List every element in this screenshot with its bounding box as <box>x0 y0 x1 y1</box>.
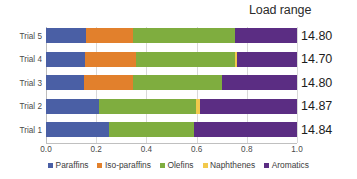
x-tick-label: 0.4 <box>141 145 152 154</box>
category-label: Trial 4 <box>0 55 42 64</box>
x-tick-label: 1.0 <box>291 145 302 154</box>
stacked-bar[interactable] <box>46 99 297 114</box>
load-range-value: 14.70 <box>301 52 355 66</box>
legend-label: Aromatics <box>272 160 309 170</box>
legend-swatch-icon <box>203 163 208 168</box>
legend-swatch-icon <box>160 163 165 168</box>
stacked-bar-chart: Load range 0.00.20.40.60.81.0 Trial 5Tri… <box>0 0 357 179</box>
stacked-bar[interactable] <box>46 52 297 67</box>
bar-row[interactable] <box>46 75 297 90</box>
bar-row[interactable] <box>46 122 297 137</box>
bar-segment-olefins[interactable] <box>136 52 235 67</box>
bar-segment-aromatics[interactable] <box>200 99 297 114</box>
x-tick-label: 0.8 <box>241 145 252 154</box>
category-label: Trial 2 <box>0 102 42 111</box>
legend-swatch-icon <box>48 163 53 168</box>
bar-segment-olefins[interactable] <box>133 28 236 43</box>
bar-segment-aromatics[interactable] <box>194 122 297 137</box>
legend-item[interactable]: Aromatics <box>264 160 309 170</box>
load-range-value: 14.80 <box>301 76 355 90</box>
bar-row[interactable] <box>46 99 297 114</box>
legend-swatch-icon <box>264 163 269 168</box>
bar-segment-olefins[interactable] <box>99 99 196 114</box>
legend-label: Iso-paraffins <box>105 160 151 170</box>
bar-segment-paraffins[interactable] <box>46 28 86 43</box>
legend-item[interactable]: Iso-paraffins <box>97 160 150 170</box>
legend-item[interactable]: Naphthenes <box>203 160 256 170</box>
bar-segment-aromatics[interactable] <box>235 28 296 43</box>
x-tick-label: 0.6 <box>191 145 202 154</box>
bar-segment-paraffins[interactable] <box>46 99 99 114</box>
legend-label: Olefins <box>167 160 193 170</box>
gridline <box>297 27 298 143</box>
bar-row[interactable] <box>46 28 297 43</box>
bar-segment-olefins[interactable] <box>109 122 194 137</box>
bar-segment-olefins[interactable] <box>133 75 222 90</box>
bar-segment-iso-paraffins[interactable] <box>86 28 132 43</box>
legend-swatch-icon <box>97 163 102 168</box>
bar-segment-paraffins[interactable] <box>46 52 85 67</box>
stacked-bar[interactable] <box>46 75 297 90</box>
bar-segment-iso-paraffins[interactable] <box>84 75 133 90</box>
load-range-value: 14.84 <box>301 123 355 137</box>
stacked-bar[interactable] <box>46 122 297 137</box>
category-label: Trial 1 <box>0 126 42 135</box>
bar-segment-iso-paraffins[interactable] <box>85 52 136 67</box>
load-range-value: 14.87 <box>301 99 355 113</box>
bar-segment-paraffins[interactable] <box>46 122 109 137</box>
x-axis-line <box>46 143 297 144</box>
legend-item[interactable]: Paraffins <box>48 160 88 170</box>
load-range-column-header: Load range <box>249 3 355 17</box>
category-label: Trial 3 <box>0 79 42 88</box>
legend-label: Naphthenes <box>210 160 255 170</box>
stacked-bar[interactable] <box>46 28 297 43</box>
legend-item[interactable]: Olefins <box>160 160 194 170</box>
bar-segment-aromatics[interactable] <box>237 52 296 67</box>
load-range-value: 14.80 <box>301 29 355 43</box>
legend-label: Paraffins <box>56 160 89 170</box>
x-tick-label: 0.2 <box>90 145 101 154</box>
bar-segment-aromatics[interactable] <box>222 75 297 90</box>
bar-segment-paraffins[interactable] <box>46 75 84 90</box>
x-tick-label: 0.0 <box>40 145 51 154</box>
category-label: Trial 5 <box>0 32 42 41</box>
plot-area <box>46 27 297 143</box>
bar-row[interactable] <box>46 52 297 67</box>
chart-legend: ParaffinsIso-paraffinsOlefinsNaphthenesA… <box>0 160 357 170</box>
